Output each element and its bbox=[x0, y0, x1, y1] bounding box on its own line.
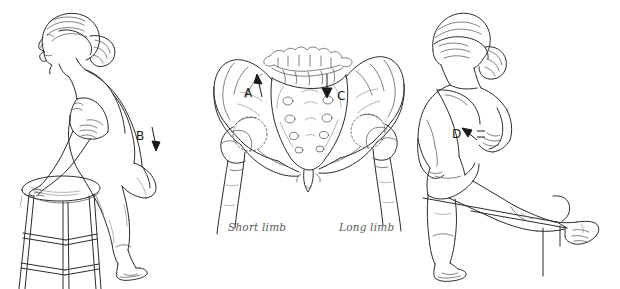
panel-rear-view-leg-on-table: D bbox=[405, 0, 620, 289]
down-arrow-icon bbox=[152, 127, 160, 151]
left-panel-drawing: B bbox=[0, 0, 205, 289]
left-figure-head bbox=[39, 13, 115, 77]
marker-b-label: B bbox=[136, 129, 144, 143]
right-ilium-long-limb-side bbox=[319, 57, 404, 174]
marker-c-label: C bbox=[337, 89, 345, 103]
right-femur bbox=[366, 124, 401, 231]
pelvis-drawing: A C bbox=[200, 0, 415, 289]
up-arrow-icon bbox=[254, 74, 262, 97]
right-figure-body bbox=[418, 85, 599, 281]
marker-d-label: D bbox=[452, 127, 461, 141]
marker-a-group: A bbox=[244, 74, 262, 100]
lumbar-vertebrae bbox=[264, 47, 352, 85]
stool-group bbox=[19, 176, 101, 289]
right-panel-drawing: D bbox=[405, 0, 620, 289]
anatomy-figure: B bbox=[0, 0, 620, 289]
marker-a-label: A bbox=[244, 86, 253, 100]
caption-long-limb: Long limb bbox=[339, 221, 394, 233]
table-group bbox=[423, 198, 567, 276]
right-figure-head bbox=[433, 13, 507, 89]
panel-pelvis-diagram: A C bbox=[200, 0, 415, 289]
caption-short-limb: Short limb bbox=[228, 221, 286, 233]
panel-standing-lean-on-stool: B bbox=[0, 0, 205, 289]
diagonal-arrow-icon bbox=[462, 128, 485, 140]
marker-d-group: D bbox=[452, 127, 485, 141]
marker-c-group: C bbox=[322, 74, 345, 103]
left-femur bbox=[217, 127, 252, 234]
